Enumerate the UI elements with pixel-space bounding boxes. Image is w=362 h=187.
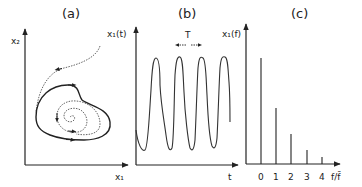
panel-c-title: (c) (291, 6, 308, 21)
panel-c: (c) x₁(f) 0 1 2 3 4 f/f̄ (222, 6, 342, 182)
x-axis-label: x₁ (115, 172, 124, 182)
panel-a-title: (a) (62, 6, 80, 21)
x-axis-label: t (228, 172, 232, 182)
tick-label: 1 (273, 172, 279, 182)
y-axis-label: x₂ (11, 36, 20, 46)
y-axis-label: x₁(t) (107, 29, 127, 39)
spiral-arrow-bottom-icon (68, 131, 74, 132)
waveform (136, 57, 230, 151)
figure-canvas: (a) x₂ x₁ (b) x₁(t) t T (c) x₁(f) (0, 0, 362, 187)
outer-trajectory (36, 46, 100, 113)
tick-label: 3 (304, 172, 310, 182)
tick-label: 2 (288, 172, 294, 182)
outer-arrow-icon (57, 69, 62, 70)
panel-b-title: (b) (178, 6, 196, 21)
y-axis-label: x₁(f) (222, 29, 241, 39)
period-label: T (184, 30, 191, 40)
tick-label: 4 (319, 172, 325, 182)
tick-label: 0 (258, 172, 264, 182)
panel-b: (b) x₁(t) t T (107, 6, 238, 182)
x-axis-label: f/f̄ (331, 171, 342, 182)
